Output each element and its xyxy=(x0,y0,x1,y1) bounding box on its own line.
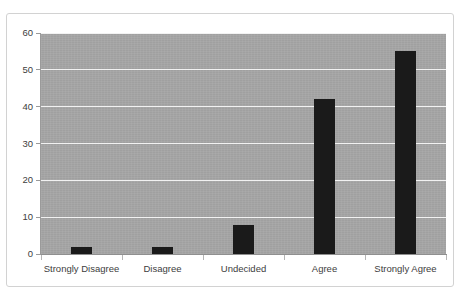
gridline xyxy=(41,143,446,144)
y-axis-tick xyxy=(36,143,41,144)
gridline xyxy=(41,69,446,70)
y-axis-tick xyxy=(36,33,41,34)
y-axis-tick-label: 60 xyxy=(9,28,33,38)
x-axis-tick-label: Disagree xyxy=(122,263,203,279)
x-axis-tick-label: Undecided xyxy=(203,263,284,279)
chart-frame: 0102030405060 Strongly DisagreeDisagreeU… xyxy=(6,13,454,287)
y-axis-tick xyxy=(36,217,41,218)
x-axis-tick xyxy=(446,255,447,260)
y-axis-tick-label: 40 xyxy=(9,102,33,112)
y-axis-tick-label: 10 xyxy=(9,212,33,222)
x-axis-tick-label: Strongly Disagree xyxy=(41,263,122,279)
y-axis-tick xyxy=(36,106,41,107)
gridline xyxy=(41,106,446,107)
x-axis-tick xyxy=(41,255,42,260)
bar xyxy=(152,247,173,254)
bar xyxy=(314,99,335,254)
caption-strip: Figure: Respondent agreement levels repo… xyxy=(0,0,462,12)
bar xyxy=(71,247,92,254)
y-axis-labels: 0102030405060 xyxy=(7,14,33,288)
x-axis-tick xyxy=(203,255,204,260)
y-axis-tick-label: 50 xyxy=(9,65,33,75)
x-axis-labels: Strongly DisagreeDisagreeUndecidedAgreeS… xyxy=(41,263,446,279)
x-axis-tick xyxy=(365,255,366,260)
gridline xyxy=(41,33,446,34)
gridline xyxy=(41,217,446,218)
y-axis-tick xyxy=(36,180,41,181)
x-axis-tick-label: Agree xyxy=(284,263,365,279)
y-axis-tick xyxy=(36,69,41,70)
bar xyxy=(233,225,254,254)
x-axis-tick-label: Strongly Agree xyxy=(365,263,446,279)
y-axis-tick-label: 30 xyxy=(9,139,33,149)
x-axis-tick xyxy=(284,255,285,260)
y-axis-tick-label: 0 xyxy=(9,249,33,259)
y-axis-tick-label: 20 xyxy=(9,175,33,185)
bar xyxy=(395,51,416,254)
gridline xyxy=(41,180,446,181)
x-axis-line xyxy=(40,254,447,255)
x-axis-tick xyxy=(122,255,123,260)
plot-area xyxy=(41,33,446,254)
